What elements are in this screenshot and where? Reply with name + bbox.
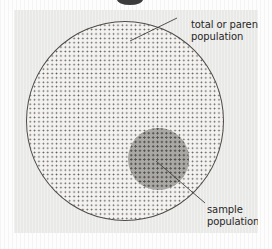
sample-leader-line xyxy=(156,161,205,203)
figure-panel: total or parent population sample popula… xyxy=(14,10,258,233)
sample-label-line2: population xyxy=(207,216,258,228)
total-or-parent-population-label: total or parent population xyxy=(191,19,258,43)
sample-label-line1: sample xyxy=(207,204,258,216)
parent-leader-line xyxy=(130,18,177,41)
leader-lines xyxy=(14,10,258,233)
sample-population-label: sample population xyxy=(207,204,258,228)
figure-root: total or parent population sample popula… xyxy=(0,0,272,249)
parent-label-line2: population xyxy=(191,31,258,43)
parent-label-line1: total or parent xyxy=(191,19,258,31)
cropped-graphic-fragment xyxy=(117,0,143,5)
